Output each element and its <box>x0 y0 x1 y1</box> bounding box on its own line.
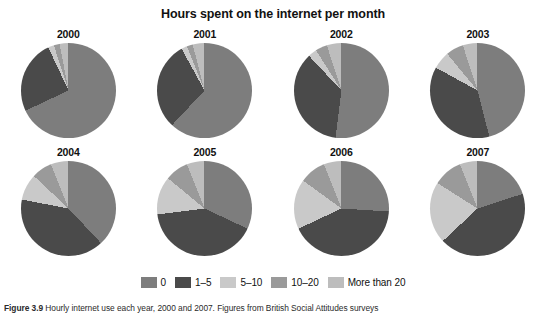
legend-label: 1–5 <box>195 277 211 288</box>
pie-panel-label: 2002 <box>330 28 353 41</box>
pie-disc <box>157 161 252 256</box>
legend-swatch <box>175 277 191 288</box>
pie-disc <box>294 161 389 256</box>
figure-caption-prefix: Figure 3.9 <box>4 303 43 313</box>
pie-disc <box>430 161 525 256</box>
pie-panel: 2005 <box>139 146 271 264</box>
pie-disc <box>294 43 389 138</box>
pie-panel: 2004 <box>2 146 134 264</box>
pie-panel-label: 2005 <box>193 146 216 159</box>
pie-disc <box>430 43 525 138</box>
chart-legend: 0 1–5 5–10 10–20 More than 20 <box>0 277 546 288</box>
pie-panel-label: 2007 <box>466 146 489 159</box>
pie-panel: 2001 <box>139 28 271 146</box>
pie-panel-label: 2001 <box>193 28 216 41</box>
legend-label: More than 20 <box>348 277 406 288</box>
figure-caption-body: Hourly internet use each year, 2000 and … <box>45 303 378 313</box>
pie-disc <box>21 161 116 256</box>
legend-label: 5–10 <box>240 277 262 288</box>
legend-swatch <box>220 277 236 288</box>
pie-panel-label: 2006 <box>330 146 353 159</box>
pie-panel: 2006 <box>275 146 407 264</box>
legend-label: 0 <box>161 277 166 288</box>
pie-panel-grid: 2000 2001 2002 2003 2004 2005 <box>0 28 546 268</box>
legend-item: More than 20 <box>328 277 406 288</box>
legend-swatch <box>271 277 287 288</box>
legend-item: 0 <box>141 277 166 288</box>
pie-panel-label: 2003 <box>466 28 489 41</box>
legend-swatch <box>141 277 157 288</box>
pie-disc <box>157 43 252 138</box>
pie-panel: 2007 <box>412 146 544 264</box>
legend-item: 1–5 <box>175 277 211 288</box>
pie-panel: 2003 <box>412 28 544 146</box>
pie-panel: 2002 <box>275 28 407 146</box>
pie-panel: 2000 <box>2 28 134 146</box>
legend-item: 5–10 <box>220 277 262 288</box>
figure-container: Hours spent on the internet per month 20… <box>0 0 546 316</box>
figure-caption: Figure 3.9 Hourly internet use each year… <box>4 303 544 316</box>
pie-panel-label: 2004 <box>57 146 80 159</box>
chart-title: Hours spent on the internet per month <box>0 7 546 21</box>
legend-swatch <box>328 277 344 288</box>
pie-panel-label: 2000 <box>57 28 80 41</box>
pie-row-bottom: 2004 2005 2006 2007 <box>0 146 546 264</box>
legend-label: 10–20 <box>291 277 318 288</box>
legend-item: 10–20 <box>271 277 318 288</box>
pie-row-top: 2000 2001 2002 2003 <box>0 28 546 146</box>
pie-disc <box>21 43 116 138</box>
